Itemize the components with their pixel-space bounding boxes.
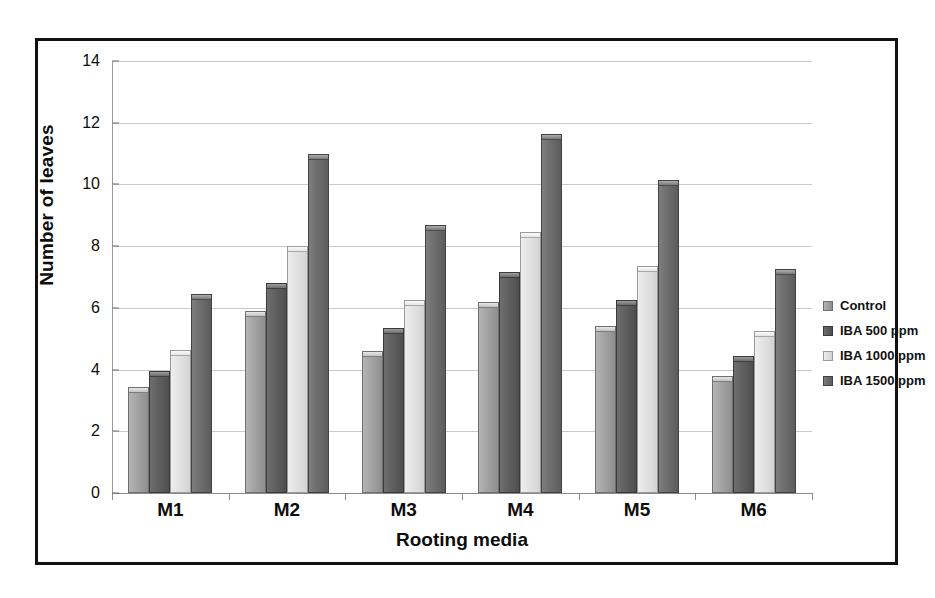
legend: ControlIBA 500 ppmIBA 1000 ppmIBA 1500 p… <box>823 293 935 393</box>
y-axis-tick-mark <box>112 431 119 432</box>
chart-area: Number of leaves 02468101214 M1M2M3M4M5M… <box>38 41 895 562</box>
legend-item[interactable]: IBA 500 ppm <box>823 318 935 343</box>
y-axis-tick-label: 12 <box>82 114 100 132</box>
y-axis-tick-mark <box>112 61 119 62</box>
bar-group-m6 <box>695 61 812 493</box>
bar[interactable] <box>712 376 733 493</box>
bar-cap <box>617 301 636 306</box>
bar[interactable] <box>149 371 170 493</box>
bar-cap <box>542 135 561 140</box>
bar-cap <box>426 226 445 231</box>
bar[interactable] <box>308 154 329 493</box>
x-axis-tick-label: M4 <box>462 499 579 521</box>
bar-group-m2 <box>229 61 346 493</box>
legend-label: IBA 1500 ppm <box>840 373 926 388</box>
plot-inner <box>112 61 812 493</box>
bar[interactable] <box>383 328 404 493</box>
x-axis-tick-label: M6 <box>695 499 812 521</box>
y-axis-tick-label: 10 <box>82 175 100 193</box>
y-axis-tick-label: 14 <box>82 52 100 70</box>
bar-cap <box>405 301 424 306</box>
legend-item[interactable]: Control <box>823 293 935 318</box>
bar-cap <box>309 155 328 160</box>
y-axis-tick-label: 0 <box>91 484 100 502</box>
y-axis-tick-mark <box>112 246 119 247</box>
y-axis-tick-mark <box>112 369 119 370</box>
bar-cap <box>521 233 540 238</box>
bar[interactable] <box>754 331 775 493</box>
x-axis-tick-label: M3 <box>345 499 462 521</box>
bar[interactable] <box>520 232 541 493</box>
bar[interactable] <box>478 302 499 493</box>
bar[interactable] <box>595 326 616 493</box>
bar-cap <box>479 303 498 308</box>
bar[interactable] <box>775 269 796 493</box>
legend-label: IBA 1000 ppm <box>840 348 926 363</box>
bar-cap <box>713 377 732 382</box>
bar-cap <box>776 270 795 275</box>
legend-item[interactable]: IBA 1000 ppm <box>823 343 935 368</box>
bar-cap <box>150 372 169 377</box>
y-axis-tick-mark <box>112 184 119 185</box>
y-axis-tick-labels: 02468101214 <box>64 41 106 562</box>
bar-group-m1 <box>112 61 229 493</box>
bar[interactable] <box>425 225 446 493</box>
y-axis-title: Number of leaves <box>36 95 58 315</box>
x-axis-tick-labels: M1M2M3M4M5M6 <box>112 499 812 521</box>
y-axis-tick-label: 4 <box>91 361 100 379</box>
bar[interactable] <box>733 356 754 493</box>
bar[interactable] <box>245 311 266 493</box>
bar-cap <box>171 351 190 356</box>
bar-cap <box>734 357 753 362</box>
y-axis-tick-mark <box>112 307 119 308</box>
bar-cap <box>363 352 382 357</box>
bar-cap <box>659 181 678 186</box>
legend-swatch-icon <box>823 376 833 386</box>
legend-swatch-icon <box>823 301 833 311</box>
bar-cap <box>129 388 148 393</box>
bar[interactable] <box>658 180 679 493</box>
bar[interactable] <box>266 283 287 493</box>
bar-cap <box>246 312 265 317</box>
bar-cap <box>192 295 211 300</box>
bar-cap <box>288 247 307 252</box>
bar-groups <box>112 61 812 493</box>
bar[interactable] <box>637 266 658 493</box>
bar-cap <box>267 284 286 289</box>
bar[interactable] <box>404 300 425 493</box>
x-axis-title: Rooting media <box>112 529 812 551</box>
legend-label: Control <box>840 298 886 313</box>
y-axis-tick-label: 8 <box>91 237 100 255</box>
plot-region <box>112 61 812 493</box>
bar[interactable] <box>287 246 308 493</box>
legend-swatch-icon <box>823 326 833 336</box>
bar[interactable] <box>128 387 149 493</box>
bar-group-m4 <box>462 61 579 493</box>
x-axis-tick-label: M1 <box>112 499 229 521</box>
bar-cap <box>755 332 774 337</box>
bar-group-m5 <box>579 61 696 493</box>
bar-group-m3 <box>345 61 462 493</box>
bar[interactable] <box>170 350 191 493</box>
x-axis-tick-label: M2 <box>229 499 346 521</box>
bar[interactable] <box>362 351 383 493</box>
x-axis-tick-mark <box>812 493 813 500</box>
y-axis-tick-label: 6 <box>91 299 100 317</box>
bar[interactable] <box>191 294 212 493</box>
figure-frame: Number of leaves 02468101214 M1M2M3M4M5M… <box>35 38 898 565</box>
bar[interactable] <box>541 134 562 493</box>
bar[interactable] <box>499 272 520 493</box>
bar[interactable] <box>616 300 637 493</box>
bar-cap <box>638 267 657 272</box>
bar-cap <box>500 273 519 278</box>
y-axis-tick-mark <box>112 122 119 123</box>
x-axis-tick-label: M5 <box>579 499 696 521</box>
y-axis-tick-label: 2 <box>91 422 100 440</box>
legend-swatch-icon <box>823 351 833 361</box>
bar-cap <box>596 327 615 332</box>
legend-label: IBA 500 ppm <box>840 323 918 338</box>
legend-item[interactable]: IBA 1500 ppm <box>823 368 935 393</box>
y-axis-tick-mark <box>112 493 119 494</box>
bar-cap <box>384 329 403 334</box>
